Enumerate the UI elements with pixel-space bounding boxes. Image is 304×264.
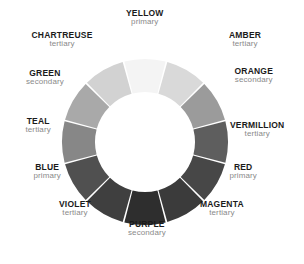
wheel-label-yellow: YELLOWprimary [126,9,164,27]
wheel-label-category: secondary [235,76,274,85]
wheel-label-category: primary [230,172,257,181]
wheel-label-green: GREENsecondary [26,69,64,87]
wheel-label-category: tertiary [26,126,51,135]
wheel-label-category: tertiary [32,40,93,49]
wheel-label-category: primary [126,18,164,27]
wheel-label-orange: ORANGEsecondary [235,67,274,85]
wheel-label-vermillion: VERMILLIONtertiary [230,121,284,139]
wheel-label-category: tertiary [230,130,284,139]
wheel-label-category: secondary [128,229,166,238]
wheel-label-magenta: MAGENTAtertiary [200,200,244,218]
wheel-label-chartreuse: CHARTREUSEtertiary [32,31,93,49]
wheel-label-amber: AMBERtertiary [229,31,261,49]
wheel-label-teal: TEALtertiary [26,117,51,135]
wheel-segment-vermillion[interactable] [193,121,228,162]
wheel-label-blue: BLUEprimary [34,163,61,181]
wheel-label-category: primary [34,172,61,181]
color-wheel-figure: YELLOWprimaryAMBERtertiaryORANGEsecondar… [0,0,304,264]
wheel-label-purple: PURPLEsecondary [128,220,166,238]
wheel-label-category: tertiary [59,209,91,218]
wheel-label-category: tertiary [229,40,261,49]
wheel-segment-teal[interactable] [62,121,97,162]
wheel-label-category: secondary [26,78,64,87]
wheel-segment-yellow[interactable] [124,59,165,94]
wheel-label-category: tertiary [200,209,244,218]
wheel-label-violet: VIOLETtertiary [59,200,91,218]
wheel-label-red: REDprimary [230,163,257,181]
